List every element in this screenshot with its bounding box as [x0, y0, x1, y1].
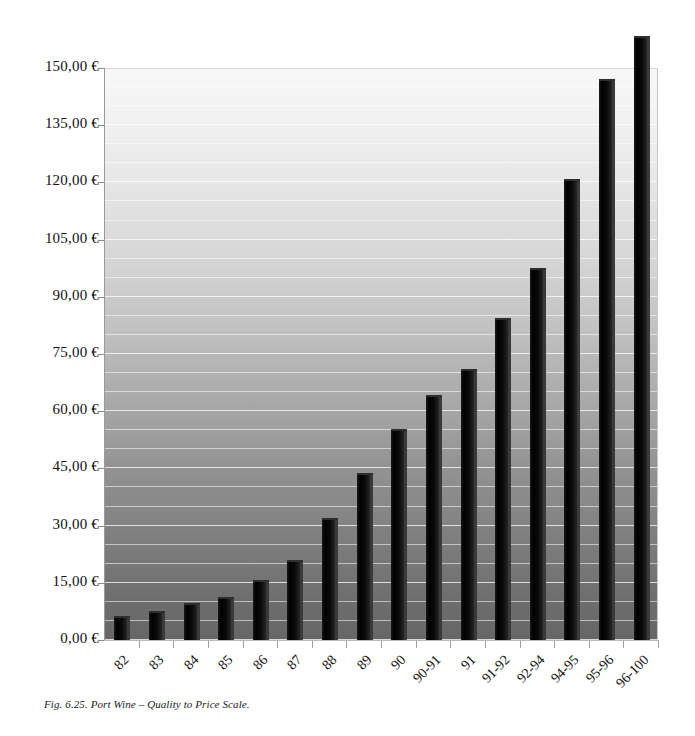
x-axis-tick	[416, 641, 417, 648]
y-axis-tick	[98, 640, 104, 641]
bar-side-face	[335, 518, 338, 640]
bar-body	[357, 473, 370, 640]
y-axis-tick-label: 135,00 €	[7, 115, 99, 132]
bar-side-face	[404, 429, 407, 640]
bar[interactable]	[114, 616, 130, 640]
figure-caption: Fig. 6.25. Port Wine – Quality to Price …	[44, 698, 250, 710]
bar-body	[114, 616, 127, 640]
gridline-major	[105, 67, 657, 68]
bar-body	[461, 369, 474, 640]
x-axis-tick	[346, 641, 347, 648]
bar-top-face	[357, 473, 373, 475]
bar-top-face	[322, 518, 338, 520]
bar[interactable]	[599, 79, 615, 640]
bar-side-face	[127, 616, 130, 640]
bar-top-face	[530, 268, 546, 270]
bar-side-face	[439, 395, 442, 640]
bar[interactable]	[461, 369, 477, 640]
bar-body	[564, 179, 577, 640]
x-axis-tick	[554, 641, 555, 648]
y-axis-tick-label: 45,00 €	[7, 458, 99, 475]
bar-side-face	[577, 179, 580, 640]
x-axis-tick	[277, 641, 278, 648]
x-axis-tick	[658, 641, 659, 648]
bar-body	[253, 580, 266, 640]
x-axis-tick	[312, 641, 313, 648]
x-axis-tick	[243, 641, 244, 648]
bar-top-face	[114, 616, 130, 618]
bar[interactable]	[357, 473, 373, 640]
x-axis-tick	[381, 641, 382, 648]
bar-top-face	[184, 603, 200, 605]
bar-top-face	[149, 611, 165, 613]
bar[interactable]	[495, 318, 511, 640]
x-axis-tick	[485, 641, 486, 648]
x-axis-tick	[520, 641, 521, 648]
y-axis-tick-label: 15,00 €	[7, 573, 99, 590]
y-axis-tick	[98, 411, 104, 412]
bar[interactable]	[322, 518, 338, 640]
bar-body	[218, 597, 231, 640]
bar-body	[599, 79, 612, 640]
bar-top-face	[218, 597, 234, 599]
x-axis-tick	[589, 641, 590, 648]
y-axis-tick-label: 90,00 €	[7, 287, 99, 304]
y-axis-tick-label: 105,00 €	[7, 230, 99, 247]
bar-top-face	[599, 79, 615, 81]
bar[interactable]	[287, 560, 303, 640]
bar-side-face	[474, 369, 477, 640]
bar-body	[495, 318, 508, 640]
y-axis-tick	[98, 240, 104, 241]
bar-top-face	[564, 179, 580, 181]
bar-body	[149, 611, 162, 640]
y-axis-tick	[98, 583, 104, 584]
bar[interactable]	[634, 36, 650, 640]
bar-body	[287, 560, 300, 640]
y-axis-tick-label: 60,00 €	[7, 401, 99, 418]
bar[interactable]	[218, 597, 234, 640]
bar[interactable]	[149, 611, 165, 640]
y-axis-tick-label: 30,00 €	[7, 516, 99, 533]
bar[interactable]	[184, 603, 200, 640]
bar[interactable]	[530, 268, 546, 640]
bar-top-face	[634, 36, 650, 38]
y-axis-tick-label: 150,00 €	[7, 58, 99, 75]
y-axis-labels: 0,00 €15,00 €30,00 €45,00 €60,00 €75,00 …	[0, 0, 99, 736]
bar-side-face	[612, 79, 615, 640]
bar[interactable]	[564, 179, 580, 640]
x-axis-tick	[450, 641, 451, 648]
bar-side-face	[197, 603, 200, 640]
x-axis-tick	[623, 641, 624, 648]
bar-side-face	[508, 318, 511, 640]
bar-top-face	[391, 429, 407, 431]
y-axis-tick	[98, 182, 104, 183]
bar-top-face	[287, 560, 303, 562]
bar-body	[530, 268, 543, 640]
y-axis-line	[104, 68, 105, 641]
y-axis-tick	[98, 354, 104, 355]
x-axis-tick	[139, 641, 140, 648]
bar-top-face	[426, 395, 442, 397]
bar-top-face	[495, 318, 511, 320]
bar-series	[105, 69, 657, 640]
plot-area	[104, 68, 658, 640]
y-axis-tick	[98, 125, 104, 126]
y-axis-tick	[98, 526, 104, 527]
bar-side-face	[543, 268, 546, 640]
bar-body	[391, 429, 404, 640]
y-axis-tick-label: 0,00 €	[7, 630, 99, 647]
bar-side-face	[231, 597, 234, 640]
bar-top-face	[461, 369, 477, 371]
y-axis-tick	[98, 468, 104, 469]
bar-body	[426, 395, 439, 640]
y-axis-tick	[98, 297, 104, 298]
x-axis-tick	[173, 641, 174, 648]
bar[interactable]	[253, 580, 269, 640]
bar-side-face	[647, 36, 650, 640]
bar-body	[322, 518, 335, 640]
x-axis-tick	[208, 641, 209, 648]
bar[interactable]	[391, 429, 407, 640]
bar-side-face	[370, 473, 373, 640]
bar[interactable]	[426, 395, 442, 640]
y-axis-tick	[98, 68, 104, 69]
